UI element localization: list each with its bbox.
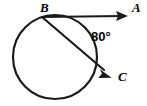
point-label-c: C bbox=[118, 69, 127, 84]
tangent-ray-ba-line bbox=[42, 16, 122, 17]
point-label-a: A bbox=[131, 0, 141, 15]
point-label-b: B bbox=[39, 0, 49, 15]
angle-measure-label: 80° bbox=[91, 29, 111, 44]
geometry-diagram: B A C 80° bbox=[0, 0, 147, 106]
